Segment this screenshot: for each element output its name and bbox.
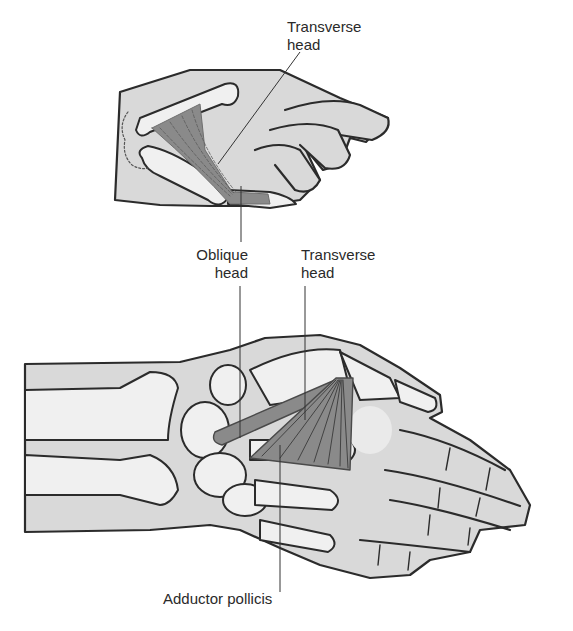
label-line: head <box>187 264 248 282</box>
label-oblique-head: Oblique head <box>187 246 248 282</box>
label-line: head <box>301 264 375 282</box>
top-hand <box>115 70 389 208</box>
label-line: Oblique <box>187 246 248 264</box>
label-transverse-head-top: Transverse head <box>287 18 361 54</box>
label-line: Transverse <box>301 246 375 264</box>
bottom-hand <box>25 335 530 578</box>
label-line: head <box>287 36 361 54</box>
hand-illustration <box>0 0 573 631</box>
label-adductor-pollicis: Adductor pollicis <box>163 590 272 608</box>
label-line: Adductor pollicis <box>163 590 272 608</box>
label-transverse-head-bottom: Transverse head <box>301 246 375 282</box>
label-line: Transverse <box>287 18 361 36</box>
anatomy-figure: Transverse head Oblique head Transverse … <box>0 0 573 631</box>
